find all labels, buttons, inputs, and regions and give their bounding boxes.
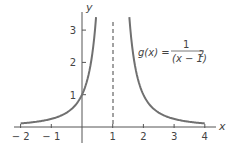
x-tick-label: − 1 [42, 131, 60, 142]
x-tick-label: 2 [140, 131, 146, 142]
function-formula: g(x) = 1 (x − 1) 2 [138, 39, 207, 64]
x-tick-label: 4 [202, 131, 208, 142]
formula-numerator: 1 [183, 39, 189, 50]
x-tick-label: 1 [110, 131, 116, 142]
formula-lhs: g(x) = [138, 47, 170, 58]
y-tick-label: 1 [70, 90, 76, 101]
x-tick-label: − 2 [12, 131, 30, 142]
curve-branch [21, 17, 96, 123]
y-tick-label: 3 [70, 25, 76, 36]
x-tick-label: 3 [171, 131, 177, 142]
y-axis-label: y [85, 1, 93, 14]
curve-branch [129, 17, 204, 123]
y-tick-label: 2 [70, 57, 76, 68]
x-axis-label: x [218, 120, 226, 133]
chart: − 2− 11234 123 x y g(x) = 1 (x − 1) 2 [0, 0, 229, 148]
formula-exponent: 2 [199, 50, 204, 59]
